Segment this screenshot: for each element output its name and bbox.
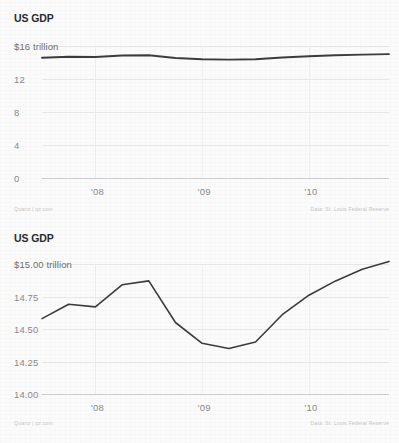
- footer-credit-top: Quartz | qz.com: [14, 206, 53, 212]
- footer-credit-bottom: Quartz | qz.com: [14, 420, 53, 426]
- chart-panel-top: US GDP $16 trillion12840'08'09'10 Quartz…: [0, 0, 399, 220]
- footer-source-top: Data: St. Louis Federal Reserve: [311, 206, 389, 212]
- data-series-line: [0, 0, 399, 220]
- chart-panel-bottom: US GDP $15.00 trillion14.7514.5014.2514.…: [0, 220, 399, 443]
- footer-source-bottom: Data: St. Louis Federal Reserve: [311, 420, 389, 426]
- data-series-line: [0, 220, 399, 443]
